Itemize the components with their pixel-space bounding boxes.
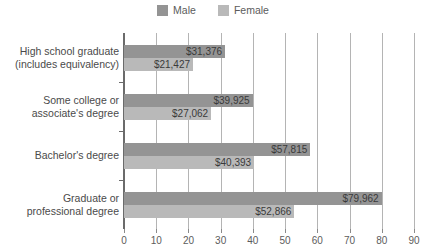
category-label: Some college orassociate's degree: [0, 94, 119, 119]
x-axis-tick: [350, 229, 351, 233]
bar-female[interactable]: $52,866: [124, 205, 294, 218]
category-label: Bachelor's degree: [0, 149, 119, 162]
x-axis-tick-label: 90: [408, 235, 419, 246]
bar-female[interactable]: $21,427: [124, 58, 193, 71]
category-label: High school graduate(includes equivalenc…: [0, 45, 119, 70]
category-label-line: Some college or: [0, 94, 119, 107]
category-label-line: Bachelor's degree: [0, 149, 119, 162]
x-axis-tick: [221, 229, 222, 233]
x-axis-tick: [188, 229, 189, 233]
y-axis-tick: [119, 82, 124, 83]
chart-legend: Male Female: [0, 5, 426, 16]
legend-item-male[interactable]: Male: [157, 5, 196, 16]
x-axis-tick: [156, 229, 157, 233]
category-label-line: Graduate or: [0, 192, 119, 205]
x-axis-tick: [285, 229, 286, 233]
category-label-axis: High school graduate(includes equivalenc…: [0, 33, 119, 229]
x-axis-tick-label: 0: [121, 235, 127, 246]
x-axis-tick-label: 50: [280, 235, 291, 246]
bar-value-label: $57,815: [271, 144, 307, 155]
bar-male[interactable]: $31,376: [124, 45, 225, 58]
category-label-line: High school graduate: [0, 45, 119, 58]
x-axis-tick-label: 70: [344, 235, 355, 246]
category-label-line: associate's degree: [0, 107, 119, 120]
legend-label-male: Male: [173, 5, 196, 16]
bar-male[interactable]: $39,925: [124, 94, 253, 107]
legend-item-female[interactable]: Female: [218, 5, 269, 16]
bar-value-label: $52,866: [255, 206, 291, 217]
bar-value-label: $21,427: [154, 59, 190, 70]
y-axis-tick: [119, 131, 124, 132]
bar-chart: Male Female High school graduate(include…: [0, 0, 426, 252]
category-label-line: professional degree: [0, 205, 119, 218]
bar-female[interactable]: $40,393: [124, 156, 254, 169]
legend-swatch-male-icon: [157, 5, 168, 16]
x-axis-tick-label: 60: [312, 235, 323, 246]
x-axis-tick: [317, 229, 318, 233]
bar-female[interactable]: $27,062: [124, 107, 211, 120]
x-axis-tick: [253, 229, 254, 233]
x-axis-tick: [414, 229, 415, 233]
y-axis-tick: [119, 180, 124, 181]
x-axis-tick: [124, 229, 125, 233]
legend-label-female: Female: [234, 5, 269, 16]
category-label: Graduate orprofessional degree: [0, 192, 119, 217]
bar-male[interactable]: $79,962: [124, 192, 382, 205]
x-axis-tick-label: 30: [215, 235, 226, 246]
bar-value-label: $39,925: [213, 95, 249, 106]
x-axis-tick-label: 20: [183, 235, 194, 246]
legend-swatch-female-icon: [218, 5, 229, 16]
x-axis-tick: [382, 229, 383, 233]
bar-value-label: $79,962: [342, 193, 378, 204]
x-axis-tick-label: 10: [151, 235, 162, 246]
plot-area: 0102030405060708090$31,376$39,925$57,815…: [124, 33, 414, 229]
gridline: [382, 33, 383, 229]
bar-value-label: $31,376: [186, 46, 222, 57]
x-axis-tick-label: 40: [247, 235, 258, 246]
bar-value-label: $27,062: [172, 108, 208, 119]
category-label-line: (includes equivalency): [0, 58, 119, 71]
gridline: [414, 33, 415, 229]
x-axis-tick-label: 80: [376, 235, 387, 246]
bar-male[interactable]: $57,815: [124, 143, 310, 156]
bar-value-label: $40,393: [215, 157, 251, 168]
